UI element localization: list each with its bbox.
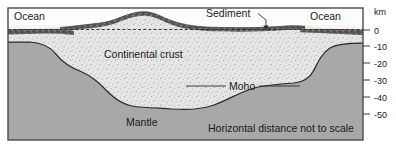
axis-tick-label-0: 0 — [374, 26, 379, 36]
cross-section-svg: km 0 -10 -20 -30 -40 -50 Ocean Ocean Sed… — [0, 0, 396, 148]
label-mantle: Mantle — [126, 116, 158, 128]
ocean-water-left — [8, 25, 60, 29]
label-ocean-right: Ocean — [310, 10, 341, 22]
label-continental-crust: Continental crust — [104, 48, 183, 60]
axis-tick-label-40: -40 — [374, 93, 387, 103]
axis-tick-label-50: -50 — [374, 110, 387, 120]
label-moho: Moho — [229, 80, 255, 92]
axis-tick-label-20: -20 — [374, 59, 387, 69]
ocean-water-right — [305, 25, 363, 29]
axis-tick-label-10: -10 — [374, 42, 387, 52]
label-ocean-left: Ocean — [14, 10, 45, 22]
cross-section-figure: km 0 -10 -20 -30 -40 -50 Ocean Ocean Sed… — [0, 0, 396, 148]
axis-unit-label: km — [374, 7, 386, 17]
label-sediment: Sediment — [206, 7, 250, 19]
axis-tick-label-30: -30 — [374, 76, 387, 86]
figure-caption: Horizontal distance not to scale — [208, 122, 354, 134]
cross-section-body — [8, 8, 363, 140]
